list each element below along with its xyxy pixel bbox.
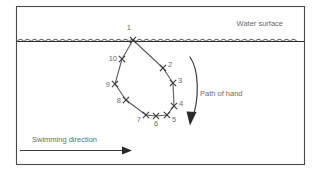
swimming-direction-arrowhead — [122, 147, 132, 155]
point-label-3: 3 — [178, 76, 182, 85]
point-marker-10 — [119, 56, 125, 62]
point-label-7: 7 — [137, 115, 141, 124]
path-of-hand-arrow — [190, 57, 197, 118]
water-surface-label: Water surface — [237, 19, 283, 28]
point-label-10: 10 — [109, 54, 117, 63]
point-markers-group — [112, 37, 177, 119]
point-marker-9 — [112, 81, 118, 87]
point-label-6: 6 — [154, 119, 158, 128]
path-of-hand-label: Path of hand — [200, 89, 243, 98]
point-marker-2 — [160, 65, 166, 71]
figure-container: 12345678910 Water surface Path of hand S… — [0, 0, 322, 171]
water-surface-wavelets — [17, 39, 297, 41]
point-label-5: 5 — [172, 115, 176, 124]
hand-path-polyline — [115, 40, 174, 116]
point-marker-8 — [123, 97, 129, 103]
point-label-4: 4 — [179, 99, 183, 108]
hand-path-diagram: 12345678910 Water surface Path of hand S… — [0, 0, 322, 171]
point-label-9: 9 — [106, 80, 110, 89]
swimming-direction-label: Swimming direction — [32, 135, 97, 144]
wavelet-path — [17, 39, 297, 41]
path-of-hand-arrowhead — [187, 112, 197, 126]
point-label-2: 2 — [168, 60, 172, 69]
point-label-8: 8 — [117, 96, 121, 105]
point-label-1: 1 — [127, 23, 131, 32]
